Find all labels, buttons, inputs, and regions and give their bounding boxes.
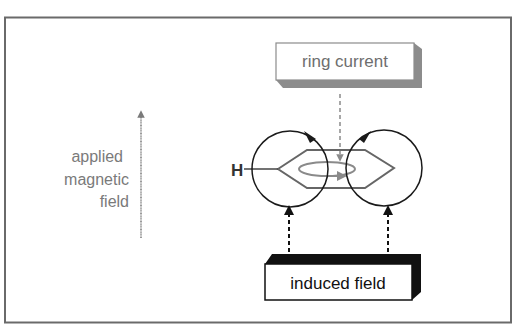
- applied-field-label: applied magnetic field: [64, 148, 129, 210]
- benzene-ring-side-view: [278, 150, 394, 188]
- ring-current-box: ring current: [276, 43, 422, 88]
- ring-current-diagram: applied magnetic field ring current H in…: [0, 0, 521, 327]
- ring-current-label: ring current: [302, 52, 388, 71]
- applied-field-line3: field: [100, 193, 129, 210]
- applied-field-line1: applied: [71, 148, 123, 165]
- frame-border: [5, 18, 511, 323]
- hydrogen-atom-label: H: [231, 161, 243, 180]
- induced-field-label: induced field: [290, 274, 385, 293]
- right-induced-field-loop: [346, 130, 422, 206]
- induced-field-box: induced field: [265, 254, 421, 300]
- applied-field-line2: magnetic: [64, 171, 129, 188]
- left-loop-arrowhead-icon: [304, 131, 316, 143]
